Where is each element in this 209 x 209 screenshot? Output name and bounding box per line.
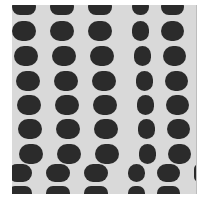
dot [136, 71, 153, 91]
image-edge [196, 5, 197, 194]
dot [12, 186, 32, 194]
dot [12, 164, 32, 182]
dot [14, 46, 38, 66]
dot [157, 186, 180, 194]
dot [84, 164, 108, 182]
dot [52, 46, 76, 66]
dot [12, 5, 36, 15]
dot [16, 71, 40, 91]
dot [90, 46, 114, 66]
dot [167, 119, 190, 139]
dot [50, 21, 74, 41]
dot [95, 144, 119, 164]
dot [88, 21, 112, 41]
dot [132, 21, 149, 41]
dot [168, 144, 191, 164]
dot [161, 5, 184, 15]
dot [18, 119, 42, 139]
dot [139, 144, 156, 164]
dot [128, 186, 145, 194]
dot [163, 46, 186, 66]
micrograph-image [12, 5, 196, 194]
dot [138, 119, 155, 139]
dot [157, 164, 180, 182]
dot [57, 144, 81, 164]
dot [19, 144, 43, 164]
dot [84, 186, 108, 194]
dot [17, 95, 41, 115]
dot [132, 5, 149, 15]
dot [165, 71, 188, 91]
dot [161, 21, 184, 41]
dot [46, 164, 70, 182]
dot [94, 119, 118, 139]
dot [12, 21, 36, 41]
dot [55, 95, 79, 115]
dot [50, 5, 74, 15]
dot [128, 164, 145, 182]
dot [56, 119, 80, 139]
dot [137, 95, 154, 115]
dot [134, 46, 151, 66]
dot [93, 95, 117, 115]
dot [166, 95, 189, 115]
dot [54, 71, 78, 91]
dot [88, 5, 112, 15]
dot [92, 71, 116, 91]
dot [46, 186, 70, 194]
